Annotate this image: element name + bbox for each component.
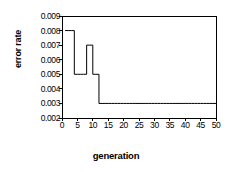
x-axis-tick-labels: 05101520253035404550 <box>0 0 232 172</box>
x-tick-label: 25 <box>135 120 144 130</box>
x-tick-label: 30 <box>150 120 159 130</box>
x-tick-label: 0 <box>60 120 64 130</box>
x-tick-label: 40 <box>181 120 190 130</box>
x-tick-label: 50 <box>212 120 221 130</box>
x-tick-label: 20 <box>119 120 128 130</box>
x-tick-label: 10 <box>88 120 97 130</box>
x-axis-title: generation <box>0 150 232 161</box>
x-tick-label: 35 <box>165 120 174 130</box>
x-tick-label: 5 <box>75 120 79 130</box>
x-tick-label: 45 <box>196 120 205 130</box>
x-tick-label: 15 <box>104 120 113 130</box>
error-rate-chart: error rate 0.0020.0030.0040.0050.0060.00… <box>0 0 232 172</box>
